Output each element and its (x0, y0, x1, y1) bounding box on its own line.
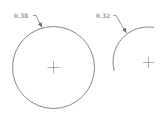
radius-leader (114, 16, 127, 34)
drawing-canvas: R.38 R.32 (0, 0, 168, 120)
radius-label: R.38 (14, 12, 28, 19)
radius-label: R.32 (96, 12, 110, 19)
radius-leader (33, 16, 42, 28)
arc-outline (113, 27, 154, 71)
center-mark-icon (48, 62, 60, 74)
arc-r32: R.32 (96, 12, 154, 71)
circle-r38: R.38 (13, 12, 95, 109)
center-mark-icon (143, 57, 154, 68)
